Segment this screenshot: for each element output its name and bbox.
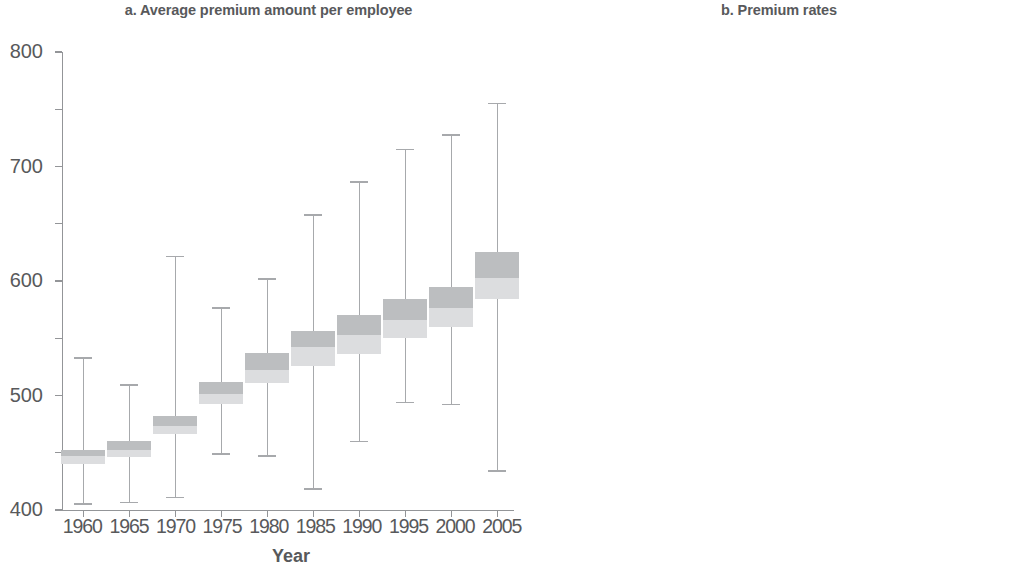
whisker-cap-lower	[350, 441, 368, 443]
box-q3-to-median	[245, 353, 289, 370]
box-plot-1995	[383, 52, 427, 510]
box-q3-to-median	[337, 315, 381, 335]
box-plot-1960	[61, 52, 105, 510]
box-median-to-q1	[383, 320, 427, 338]
box-plot-1970	[153, 52, 197, 510]
box-median-to-q1	[475, 278, 519, 299]
box-q3-to-median	[383, 299, 427, 320]
box-plot-2005	[475, 52, 519, 510]
whisker-line	[83, 358, 85, 504]
panel-a-plot-area: 0100200300400500600700800 19601965197019…	[63, 52, 513, 510]
x-tick-label: 1995	[385, 515, 432, 538]
y-tick-label: 400	[10, 498, 43, 521]
box-plot-1990	[337, 52, 381, 510]
box-plot-1980	[245, 52, 289, 510]
box-median-to-q1	[107, 450, 151, 457]
box-q3-to-median	[153, 416, 197, 427]
panel-a-x-tick-labels: 1960196519701975198019851990199520002005	[59, 515, 525, 541]
box-median-to-q1	[153, 426, 197, 433]
box-plot-1985	[291, 52, 335, 510]
box-plot-1975	[199, 52, 243, 510]
panel-b: b. Premium rates 024681012 1960196519701…	[515, 0, 1033, 567]
panel-a: a. Average premium amount per employee 0…	[0, 0, 515, 567]
box-plot-1965	[107, 52, 151, 510]
box-median-to-q1	[199, 394, 243, 404]
x-tick-label: 1960	[59, 515, 106, 538]
x-tick-label: 1990	[339, 515, 386, 538]
y-tick-label: 600	[10, 269, 43, 292]
whisker-cap-upper	[166, 256, 184, 258]
x-tick-label: 1975	[199, 515, 246, 538]
box-median-to-q1	[61, 456, 105, 465]
whisker-cap-lower	[488, 470, 506, 472]
box-q3-to-median	[429, 287, 473, 309]
whisker-line	[405, 149, 407, 402]
whisker-cap-lower	[212, 453, 230, 455]
panel-b-title: b. Premium rates	[515, 2, 1033, 18]
panel-a-x-axis-title: Year	[63, 546, 513, 567]
whisker-cap-upper	[258, 278, 276, 280]
box-q3-to-median	[199, 382, 243, 393]
whisker-cap-upper	[442, 134, 460, 136]
box-median-to-q1	[337, 335, 381, 354]
whisker-cap-lower	[120, 502, 138, 504]
box-median-to-q1	[245, 370, 289, 383]
whisker-cap-lower	[258, 455, 276, 457]
box-q3-to-median	[475, 252, 519, 278]
whisker-cap-lower	[304, 488, 322, 490]
whisker-cap-upper	[396, 149, 414, 151]
y-tick-label: 700	[10, 154, 43, 177]
box-q3-to-median	[291, 331, 335, 346]
whisker-line	[175, 256, 177, 497]
x-tick-label: 1970	[152, 515, 199, 538]
figure-root: a. Average premium amount per employee 0…	[0, 0, 1033, 567]
whisker-cap-upper	[488, 103, 506, 105]
whisker-line	[451, 135, 453, 405]
whisker-cap-upper	[212, 307, 230, 309]
box-median-to-q1	[429, 308, 473, 326]
whisker-cap-lower	[74, 503, 92, 505]
whisker-line	[359, 182, 361, 441]
box-q3-to-median	[107, 441, 151, 450]
whisker-cap-upper	[120, 384, 138, 386]
box-plot-2000	[429, 52, 473, 510]
y-tick-label: 800	[10, 40, 43, 63]
x-tick-label: 2000	[432, 515, 479, 538]
x-tick-label: 1965	[106, 515, 153, 538]
x-tick-label: 1985	[292, 515, 339, 538]
whisker-cap-lower	[396, 402, 414, 404]
panel-a-title: a. Average premium amount per employee	[0, 2, 515, 18]
x-tick-label: 1980	[245, 515, 292, 538]
whisker-cap-upper	[350, 181, 368, 183]
whisker-cap-lower	[442, 404, 460, 406]
y-tick-label: 500	[10, 383, 43, 406]
whisker-cap-upper	[74, 357, 92, 359]
whisker-cap-upper	[304, 214, 322, 216]
whisker-cap-lower	[166, 497, 184, 499]
box-median-to-q1	[291, 347, 335, 366]
whisker-line	[221, 308, 223, 454]
